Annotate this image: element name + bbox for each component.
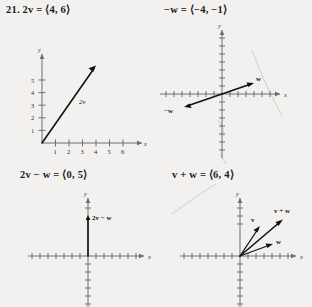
- y-axis-arrowhead: [86, 198, 91, 203]
- plot-v-plus-w: x y v w v + w: [172, 186, 312, 307]
- vector-v-plus-w-label: v + w: [274, 207, 291, 215]
- y-axis-label: y: [235, 190, 239, 197]
- plot-neg-w: x y w −w: [160, 24, 312, 164]
- panel-2v: 21. 2v = ⟨4, 6⟩: [6, 3, 70, 15]
- vector-w: [222, 84, 251, 94]
- vector-w-arrowhead: [266, 244, 274, 249]
- panel-neg-w: −w = ⟨−4, −1⟩: [164, 3, 227, 15]
- vector-v-plus-w: [240, 222, 280, 256]
- x-axis-arrowhead: [291, 254, 296, 259]
- y-tick-label-1: 1: [31, 127, 34, 134]
- vector-2v-minus-w-arrowhead: [86, 215, 91, 220]
- y-axis-arrowhead: [40, 54, 45, 59]
- caption-2v: 21. 2v = ⟨4, 6⟩: [6, 3, 70, 15]
- x-axis-arrowhead: [275, 92, 280, 97]
- vector-w: [240, 245, 270, 256]
- x-axis-arrowhead: [139, 254, 144, 259]
- x-tick-label-2: 2: [67, 148, 70, 155]
- caption-v-plus-w: v + w = ⟨6, 4⟩: [172, 168, 234, 180]
- x-axis-label: x: [147, 253, 151, 260]
- y-tick-label-3: 3: [31, 102, 34, 109]
- caption-neg-w: −w = ⟨−4, −1⟩: [164, 3, 227, 15]
- vector-w-arrowhead: [247, 83, 255, 88]
- scan-artifact-curve-1: [252, 50, 282, 116]
- x-axis-arrowhead: [137, 141, 142, 146]
- y-axis-label: y: [83, 190, 87, 197]
- caption-2v-text: 2v = ⟨4, 6⟩: [23, 4, 71, 15]
- panel-v-plus-w: v + w = ⟨6, 4⟩: [172, 168, 234, 180]
- vector-2v-minus-w-label: 2v − w: [92, 214, 112, 222]
- scan-artifact-line: [172, 184, 216, 214]
- vector-v-arrowhead: [254, 226, 261, 233]
- y-axis-arrowhead: [220, 30, 225, 35]
- x-tick-label-5: 5: [108, 148, 111, 155]
- x-tick-label-3: 3: [81, 148, 84, 155]
- x-tick-label-1: 1: [54, 148, 57, 155]
- y-axis-label: y: [217, 22, 221, 29]
- vector-2v-label: 2v: [79, 98, 87, 106]
- x-axis-label: x: [283, 91, 287, 98]
- x-tick-label-4: 4: [94, 148, 98, 155]
- x-tick-label-6: 6: [121, 148, 125, 155]
- y-axis-arrowhead: [238, 198, 243, 203]
- vector-neg-w: [187, 94, 222, 106]
- vector-w-label: w: [256, 75, 262, 83]
- y-tick-label-4: 4: [31, 89, 35, 96]
- panel-2v-minus-w: 2v − w = ⟨0, 5⟩: [20, 168, 87, 180]
- caption-2v-minus-w: 2v − w = ⟨0, 5⟩: [20, 168, 87, 180]
- exercise-number: 21.: [6, 4, 20, 15]
- x-axis-label: x: [143, 140, 147, 147]
- vector-2v: [42, 69, 94, 144]
- vector-w-label: w: [276, 238, 282, 246]
- plot-2v-minus-w: x y 2v − w: [26, 188, 158, 307]
- y-tick-label-5: 5: [31, 77, 34, 84]
- y-tick-label-2: 2: [31, 114, 34, 121]
- plot-2v: 1 2 3 4 5 6 1 2 3 4 5 x y 2v: [14, 42, 154, 160]
- vector-2v-arrowhead: [89, 66, 97, 73]
- scan-artifact-curve-3: [220, 154, 226, 164]
- y-axis-label: y: [37, 46, 41, 53]
- x-axis-label: x: [299, 253, 303, 260]
- vector-v-label: v: [251, 216, 255, 224]
- vector-neg-w-label: −w: [164, 107, 174, 115]
